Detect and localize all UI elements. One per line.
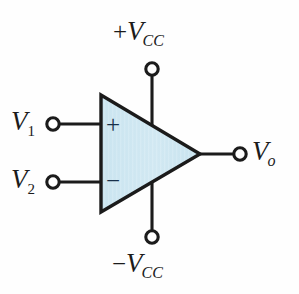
terminal-node-supply-negative[interactable] — [146, 231, 158, 243]
label-input-inverting-var: V — [11, 164, 28, 194]
label-input-inverting-subscript: 2 — [28, 181, 36, 197]
terminal-node-input-inverting[interactable] — [47, 176, 59, 188]
label-supply-negative: −VCC — [112, 250, 164, 277]
terminal-node-input-noninverting[interactable] — [47, 118, 59, 130]
label-supply-negative-var: V — [126, 248, 143, 278]
label-input-noninverting-var: V — [11, 106, 28, 136]
label-input-inverting: V2 — [11, 166, 35, 193]
label-supply-positive-sign: + — [113, 18, 127, 45]
terminal-node-output[interactable] — [234, 148, 246, 160]
terminal-node-supply-positive[interactable] — [146, 63, 158, 75]
label-output-subscript: o — [268, 152, 276, 169]
label-supply-positive: +VCC — [113, 18, 165, 45]
label-output: Vo — [252, 138, 277, 165]
label-input-noninverting: V1 — [11, 108, 35, 135]
noninverting-input-plus-sign: + — [106, 112, 120, 137]
inverting-input-minus-sign: − — [106, 168, 120, 193]
label-input-noninverting-subscript: 1 — [28, 123, 36, 139]
label-supply-positive-var: V — [127, 16, 144, 46]
label-output-var: V — [252, 136, 269, 166]
label-supply-positive-subscript: CC — [143, 32, 164, 49]
op-amp-diagram: + − +VCC −VCC V1 V2 Vo — [0, 0, 299, 294]
label-supply-negative-subscript: CC — [142, 264, 163, 281]
label-supply-negative-sign: − — [112, 250, 126, 277]
